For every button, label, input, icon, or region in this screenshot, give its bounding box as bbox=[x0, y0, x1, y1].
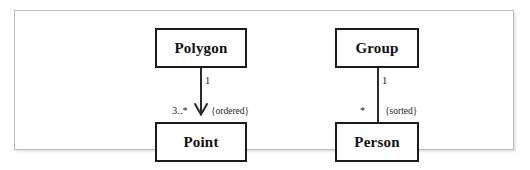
uml-class-name-person: Person bbox=[354, 134, 399, 151]
uml-class-name-group: Group bbox=[355, 40, 398, 57]
diagram-frame: Polygon 1 3..* {ordered} Point Group 1 *… bbox=[14, 10, 514, 150]
uml-class-box-person[interactable]: Person bbox=[335, 122, 419, 162]
uml-class-box-group[interactable]: Group bbox=[335, 28, 419, 68]
association-line-group-person bbox=[377, 68, 379, 122]
multiplicity-label-person: * bbox=[360, 106, 365, 117]
constraint-label-sorted: {sorted} bbox=[385, 107, 417, 117]
multiplicity-label-point: 3..* bbox=[172, 106, 188, 117]
diagram-canvas: Polygon 1 3..* {ordered} Point Group 1 *… bbox=[0, 0, 530, 170]
multiplicity-label-polygon: 1 bbox=[205, 76, 210, 87]
multiplicity-label-group: 1 bbox=[382, 76, 387, 87]
uml-class-name-polygon: Polygon bbox=[174, 40, 227, 57]
uml-class-box-polygon[interactable]: Polygon bbox=[155, 28, 247, 68]
association-line-polygon-point bbox=[200, 68, 202, 115]
constraint-label-ordered: {ordered} bbox=[211, 107, 249, 117]
uml-class-box-point[interactable]: Point bbox=[155, 122, 247, 162]
uml-class-name-point: Point bbox=[183, 134, 218, 151]
